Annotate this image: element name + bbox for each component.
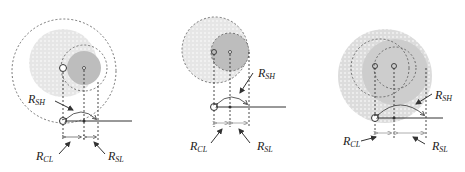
center-dot (83, 67, 86, 70)
label-rcl: RCL (189, 139, 208, 154)
sh-arc (66, 112, 96, 119)
label-rsl: RSL (256, 139, 273, 154)
label-rsh: RSH (27, 92, 46, 107)
label-rsl: RSL (107, 149, 124, 164)
center-marker (60, 65, 67, 72)
diagram-figure: RSH RCL RSL RSH RCL RSL (0, 0, 465, 172)
label-rsl: RSL (431, 139, 448, 154)
panel-middle: RSH RCL RSL (182, 17, 286, 154)
label-rcl: RCL (35, 149, 54, 164)
label-rsh: RSH (257, 66, 276, 81)
label-rcl: RCL (342, 134, 361, 149)
small-shaded-circle (362, 39, 428, 105)
panel-right: RSH RCL RSL (338, 29, 453, 154)
panel-left: RSH RCL RSL (12, 19, 132, 164)
label-rsh: RSH (434, 88, 453, 103)
